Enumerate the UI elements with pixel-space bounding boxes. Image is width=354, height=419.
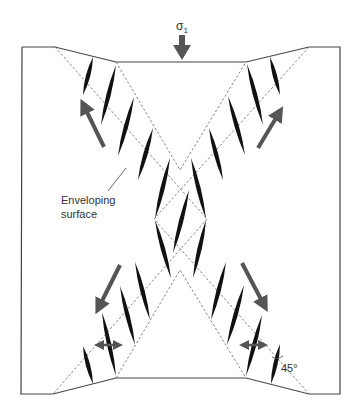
vein	[135, 262, 150, 320]
vein	[83, 57, 93, 95]
vein	[228, 96, 245, 155]
dashed-envelope	[154, 47, 309, 394]
vein	[227, 285, 244, 345]
shear-arrow-icon	[99, 265, 120, 307]
vein	[118, 97, 134, 156]
vein	[101, 65, 116, 125]
angle-label: 45°	[281, 362, 298, 375]
vein	[209, 128, 223, 180]
vein	[155, 158, 170, 219]
enveloping-surface-label: Enveloping	[61, 194, 115, 207]
vein	[193, 220, 206, 278]
enveloping-surface-label-2: surface	[61, 208, 97, 221]
vein	[247, 64, 263, 125]
vein	[271, 344, 280, 384]
dashed-envelope	[116, 62, 246, 170]
sigma1-arrow-icon	[173, 35, 191, 60]
shear-arrow-icon	[242, 263, 264, 305]
shear-arrow-icon	[84, 106, 104, 147]
vein	[270, 57, 280, 95]
vein	[173, 190, 189, 253]
vein	[138, 128, 153, 180]
vein	[83, 346, 93, 384]
vein	[211, 262, 226, 320]
sigma1-label: σ1	[176, 20, 188, 37]
en-echelon-veins	[83, 57, 280, 384]
leader-line	[108, 168, 126, 191]
x-shear-zone-diagram	[0, 0, 354, 419]
dashed-envelope	[116, 270, 246, 378]
